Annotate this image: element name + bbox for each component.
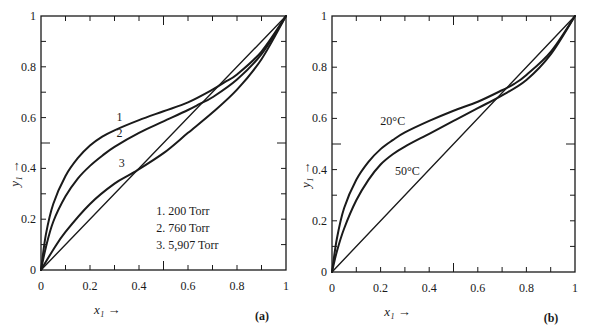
y-tick-label: 1 [30,9,36,23]
x-tick-label: 0.2 [83,279,98,293]
panel-a: 00.20.40.60.8100.20.40.60.81x₁ →y₁ →(a)1… [7,9,289,323]
y-tick-label: 0 [321,265,327,279]
legend-item: 2. 760 Torr [156,221,209,235]
x-tick-label: 0.8 [230,279,245,293]
y-tick-label: 0.2 [312,214,327,228]
curve-label-1: 1 [116,110,122,124]
x-tick-label: 0.4 [132,279,147,293]
x-tick-label: 1 [283,279,289,293]
panel-label: (b) [544,311,559,325]
y-tick-label: 0.6 [312,111,327,125]
x-tick-label: 0 [329,281,335,295]
x-axis-label: x₁ → [93,302,121,317]
y-tick-label: 0.8 [312,60,327,74]
x-tick-label: 0.2 [373,281,388,295]
curve-label-50c: 50°C [395,164,420,178]
x-tick-label: 0.8 [519,281,534,295]
y-tick-label: 0.8 [21,60,36,74]
y-axis-label: y₁ → [7,160,22,189]
x-tick-label: 0.4 [422,281,437,295]
curve-label-2: 2 [116,126,122,140]
x-tick-label: 1 [572,281,578,295]
x-tick-label: 0 [38,279,44,293]
legend-item: 1. 200 Torr [156,204,209,218]
legend: 1. 200 Torr2. 760 Torr3. 5,907 Torr [156,204,218,252]
y-axis-label: y₁ → [298,161,313,190]
y-tick-label: 0 [30,263,36,277]
x-tick-label: 0.6 [181,279,196,293]
panel-label: (a) [255,309,269,323]
figure: 00.20.40.60.8100.20.40.60.81x₁ →y₁ →(a)1… [0,0,592,331]
curve-label-20c: 20°C [380,114,405,128]
legend-item: 3. 5,907 Torr [156,238,218,252]
y-tick-label: 0.4 [312,163,327,177]
y-tick-label: 1 [321,9,327,23]
diagonal-line [332,16,575,272]
curve-label-3: 3 [119,156,125,170]
y-tick-label: 0.2 [21,212,36,226]
panel-b: 00.20.40.60.8100.20.40.60.81x₁ →y₁ →(b)2… [298,9,578,325]
y-tick-label: 0.6 [21,111,36,125]
x-axis-label: x₁ → [383,304,411,319]
x-tick-label: 0.6 [470,281,485,295]
y-tick-label: 0.4 [21,161,36,175]
